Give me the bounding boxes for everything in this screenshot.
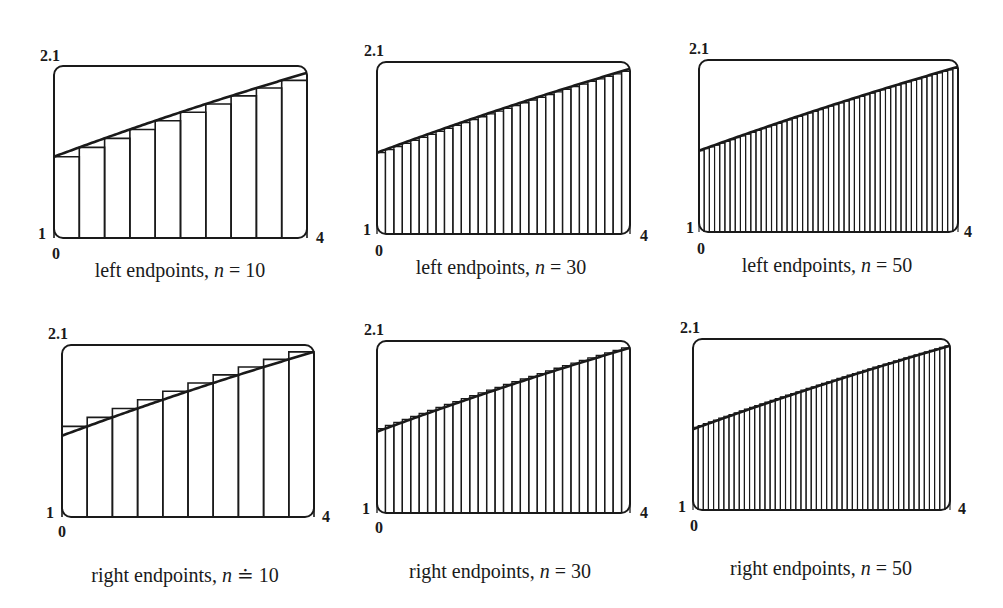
riemann-rectangle [744,409,749,510]
caption-variable: n [861,557,871,579]
riemann-rectangle [832,380,837,510]
caption-value: = 50 [871,557,912,579]
riemann-rectangle [719,418,724,510]
riemann-rectangle [873,367,878,510]
tick-label-xmin: 0 [690,518,698,534]
riemann-rectangle [791,393,796,510]
riemann-rectangles [693,346,950,510]
tick-label-ymax: 2.1 [680,320,700,336]
riemann-rectangle [708,422,713,510]
riemann-rectangle [929,350,934,510]
riemann-rectangle [924,352,929,510]
riemann-rectangle [760,404,765,510]
riemann-rectangle [899,359,904,510]
riemann-rectangle [698,425,703,510]
riemann-rectangle [775,399,780,510]
riemann-rectangle [827,382,832,510]
riemann-rectangle [919,353,924,510]
riemann-rectangle [786,395,791,510]
riemann-rectangle [750,407,755,510]
riemann-rectangle [888,362,893,510]
riemann-rectangle [914,355,919,510]
plot-area [0,0,1003,608]
riemann-rectangle [909,356,914,510]
riemann-rectangle [765,402,770,510]
riemann-rectangle [724,416,729,510]
riemann-rectangle [847,375,852,510]
riemann-rectangle [806,388,811,510]
riemann-rectangle [883,364,888,510]
riemann-rectangle [904,358,909,510]
riemann-rectangle [868,369,873,510]
riemann-rectangle [755,406,760,510]
riemann-rectangle [714,420,719,510]
riemann-rectangle [837,378,842,510]
riemann-rectangle [852,374,857,510]
riemann-rectangle [780,397,785,510]
riemann-rectangle [940,347,945,510]
riemann-rectangle [739,411,744,510]
riemann-rectangle [935,349,940,510]
riemann-rectangle [857,372,862,510]
riemann-rectangle [801,390,806,510]
riemann-rectangle [703,424,708,510]
riemann-rectangle [816,385,821,510]
riemann-rectangle [878,366,883,510]
riemann-rectangle [893,361,898,510]
riemann-rectangle [729,414,734,510]
riemann-rectangle [770,400,775,510]
riemann-sum-figure: 2.1104left endpoints, n = 102.1104left e… [0,0,1003,608]
riemann-rectangle [863,370,868,510]
riemann-rectangle [811,387,816,510]
caption-method: right endpoints, [730,557,861,579]
tick-label-ymin: 1 [678,499,686,515]
riemann-rectangle [734,413,739,510]
panel-caption: right endpoints, n = 50 [730,558,912,578]
tick-label-xmax: 4 [958,501,966,517]
riemann-rectangle [796,392,801,510]
riemann-rectangle [842,377,847,510]
riemann-rectangle [822,383,827,510]
